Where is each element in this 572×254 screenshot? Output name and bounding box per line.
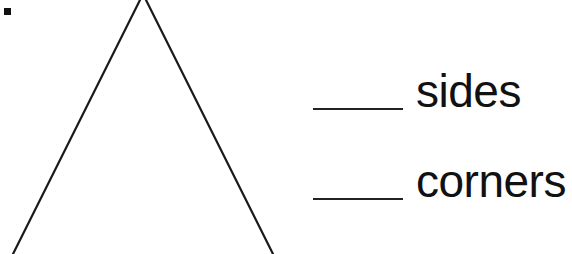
corners-prompt: corners (313, 158, 566, 204)
triangle-shape (0, 0, 572, 254)
corners-label: corners (416, 158, 566, 204)
sides-prompt: sides (313, 68, 521, 114)
sides-label: sides (416, 68, 521, 114)
corners-answer-blank[interactable] (313, 198, 403, 200)
sides-answer-blank[interactable] (313, 108, 403, 110)
